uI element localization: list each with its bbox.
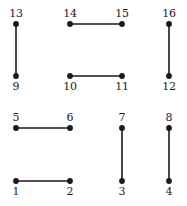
graph-vertex	[166, 73, 172, 79]
vertex-label: 16	[162, 8, 176, 19]
vertex-label: 13	[9, 8, 23, 19]
graph-vertex	[119, 21, 125, 27]
graph-vertex	[166, 178, 172, 184]
graph-vertex	[13, 125, 19, 131]
vertex-layer	[13, 21, 172, 184]
vertex-label: 14	[63, 8, 77, 19]
vertex-label: 9	[13, 81, 20, 92]
graph-vertex	[119, 73, 125, 79]
vertex-label: 15	[115, 8, 129, 19]
graph-vertex	[13, 178, 19, 184]
vertex-label: 11	[115, 81, 129, 92]
graph-canvas	[0, 0, 187, 206]
graph-vertex	[13, 73, 19, 79]
graph-vertex	[67, 73, 73, 79]
graph-vertex	[67, 125, 73, 131]
graph-vertex	[67, 178, 73, 184]
graph-vertex	[67, 21, 73, 27]
graph-vertex	[119, 125, 125, 131]
graph-vertex	[166, 21, 172, 27]
vertex-label: 8	[166, 112, 173, 123]
edge-layer	[16, 24, 169, 181]
vertex-label: 6	[67, 112, 74, 123]
vertex-label: 3	[119, 186, 126, 197]
graph-diagram: 12345678910111213141516	[0, 0, 187, 206]
vertex-label: 12	[162, 81, 176, 92]
vertex-label: 7	[119, 112, 126, 123]
graph-vertex	[13, 21, 19, 27]
graph-vertex	[166, 125, 172, 131]
vertex-label: 4	[166, 186, 173, 197]
vertex-label: 10	[63, 81, 77, 92]
vertex-label: 5	[13, 112, 20, 123]
vertex-label: 1	[13, 186, 20, 197]
vertex-label: 2	[67, 186, 74, 197]
graph-vertex	[119, 178, 125, 184]
